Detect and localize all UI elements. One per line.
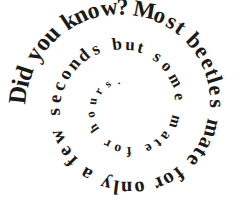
spiral-glyph: n [121,178,132,200]
spiral-text-canvas: Didyouknow?Mostbeetlesmateforonlyafewsec… [0,0,245,218]
spiral-glyph: ? [116,0,129,20]
spiral-text-figure: Didyouknow?Mostbeetlesmateforonlyafewsec… [0,0,245,218]
spiral-glyph: u [125,35,136,55]
spiral-glyph: s [42,108,63,117]
spiral-glyph: s [205,99,230,108]
